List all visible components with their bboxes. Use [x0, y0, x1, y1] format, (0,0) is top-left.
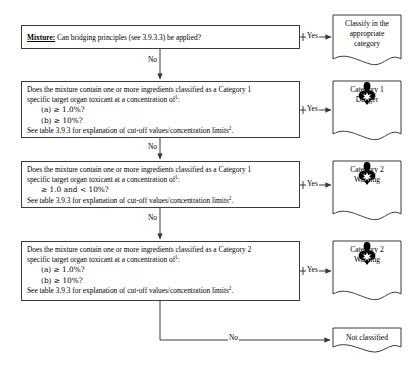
- decision-line-2: specific target organ toxicant at a conc…: [27, 175, 175, 184]
- outcome-line-1: Classify in the: [336, 19, 398, 29]
- decision-line-1: Does the mixture contain one or more ing…: [27, 165, 295, 175]
- decision-footer: See table 3.9.3 for explanation of cut-o…: [27, 196, 229, 205]
- decision-line-2-tail: :: [178, 175, 180, 184]
- decision-option-b: (b) ≥ 10%?: [27, 116, 295, 126]
- outcome-category-1-danger[interactable]: Category 1 Danger: [332, 80, 402, 142]
- decision-footer-tail: .: [231, 286, 233, 295]
- decision-option-a: ≥ 1.0 and < 10%?: [27, 185, 295, 195]
- edge-label-yes-2: Yes: [306, 104, 319, 113]
- decision-line-2-tail: :: [178, 255, 180, 264]
- decision-category2-thresholds[interactable]: Does the mixture contain one or more ing…: [21, 241, 300, 301]
- decision-line-2: specific target organ toxicant at a conc…: [27, 255, 175, 264]
- outcome-classify-appropriate[interactable]: Classify in the appropriate category: [332, 14, 402, 67]
- decision-line-2: specific target organ toxicant at a conc…: [27, 95, 175, 104]
- ghs-health-hazard-icon: [332, 81, 402, 106]
- decision-bridging-principles[interactable]: Mixture: Can bridging principles (see 3.…: [21, 25, 300, 49]
- outcome-line-3: category: [336, 39, 398, 49]
- decision-category1-thresholds[interactable]: Does the mixture contain one or more ing…: [21, 81, 300, 138]
- edge-label-yes-3: Yes: [306, 179, 319, 188]
- outcome-line-2: appropriate: [336, 29, 398, 39]
- decision-option-a: (a) ≥ 1.0%?: [27, 105, 295, 115]
- bridging-question: Can bridging principles (see 3.9.3.3) be…: [57, 33, 201, 42]
- decision-footer-tail: .: [231, 196, 233, 205]
- decision-category1-range[interactable]: Does the mixture contain one or more ing…: [21, 161, 300, 208]
- edge-label-no-3: No: [147, 213, 158, 222]
- outcome-not-classified[interactable]: Not classified: [332, 327, 402, 354]
- flowchart-canvas: Mixture: Can bridging principles (see 3.…: [0, 0, 409, 369]
- outcome-label: Not classified: [336, 333, 398, 343]
- decision-footer: See table 3.9.3 for explanation of cut-o…: [27, 286, 229, 295]
- decision-option-b: (b) ≥ 10%?: [27, 276, 295, 286]
- decision-footer-tail: .: [231, 126, 233, 135]
- outcome-category-2-warning-upper[interactable]: Category 2 Warning: [332, 160, 402, 222]
- ghs-health-hazard-icon: [332, 161, 402, 186]
- mixture-label: Mixture:: [27, 33, 55, 42]
- decision-line-2-tail: :: [178, 95, 180, 104]
- decision-line-1: Does the mixture contain one or more ing…: [27, 245, 295, 255]
- ghs-health-hazard-icon: [332, 241, 402, 266]
- edge-label-yes-4: Yes: [306, 265, 319, 274]
- decision-line-1: Does the mixture contain one or more ing…: [27, 85, 295, 95]
- outcome-category-2-warning-lower[interactable]: Category 2 Warning: [332, 240, 402, 302]
- decision-footer: See table 3.9.3 for explanation of cut-o…: [27, 126, 229, 135]
- edge-label-no-final: No: [228, 333, 239, 342]
- decision-option-a: (a) ≥ 1.0%?: [27, 265, 295, 275]
- edge-label-no-1: No: [147, 55, 158, 64]
- edge-label-no-2: No: [147, 142, 158, 151]
- edge-label-yes-1: Yes: [306, 31, 319, 40]
